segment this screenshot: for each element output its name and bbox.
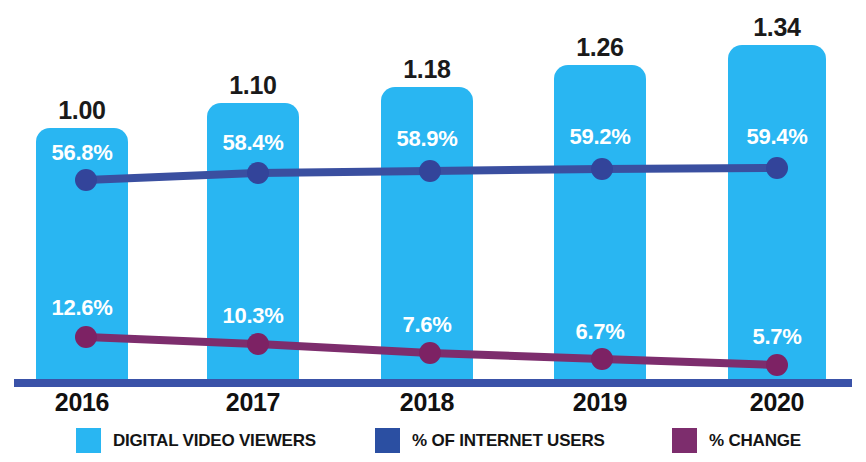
change-pct-label-2018: 7.6% [377,312,477,338]
internet-pct-label-2017: 58.4% [203,130,303,156]
bar-value-label-2017: 1.10 [203,71,303,100]
chart-legend: DIGITAL VIDEO VIEWERS % OF INTERNET USER… [0,424,866,462]
change-pct-label-2019: 6.7% [550,319,650,345]
change-pct-label-2016: 12.6% [32,295,132,321]
bar-value-label-2018: 1.18 [377,55,477,84]
plot-area: 1.00 1.10 1.18 1.26 1.34 56.8% 58.4% 58.… [0,0,866,390]
legend-label-digital-video-viewers: DIGITAL VIDEO VIEWERS [113,431,316,451]
legend-swatch-pct-internet-users [375,428,400,453]
x-tick-2016: 2016 [32,388,132,417]
internet-pct-label-2020: 59.4% [727,124,827,150]
legend-label-pct-change: % CHANGE [709,431,801,451]
x-tick-2020: 2020 [727,388,827,417]
internet-pct-label-2019: 59.2% [550,124,650,150]
bar-value-label-2019: 1.26 [550,33,650,62]
x-axis-labels: 2016 2017 2018 2019 2020 [0,388,866,424]
legend-swatch-pct-change [672,428,697,453]
x-axis-baseline [14,379,852,387]
legend-label-pct-internet-users: % OF INTERNET USERS [412,431,605,451]
legend-item-pct-internet-users[interactable]: % OF INTERNET USERS [375,428,605,453]
chart-container: 1.00 1.10 1.18 1.26 1.34 56.8% 58.4% 58.… [0,0,866,462]
bar-value-label-2016: 1.00 [32,96,132,125]
change-pct-label-2017: 10.3% [203,303,303,329]
bar-value-label-2020: 1.34 [727,13,827,42]
internet-pct-label-2018: 58.9% [377,126,477,152]
legend-swatch-digital-video-viewers [76,428,101,453]
x-tick-2019: 2019 [550,388,650,417]
legend-item-pct-change[interactable]: % CHANGE [672,428,801,453]
legend-item-digital-video-viewers[interactable]: DIGITAL VIDEO VIEWERS [76,428,316,453]
internet-pct-label-2016: 56.8% [32,140,132,166]
x-tick-2017: 2017 [203,388,303,417]
x-tick-2018: 2018 [377,388,477,417]
change-pct-label-2020: 5.7% [727,324,827,350]
